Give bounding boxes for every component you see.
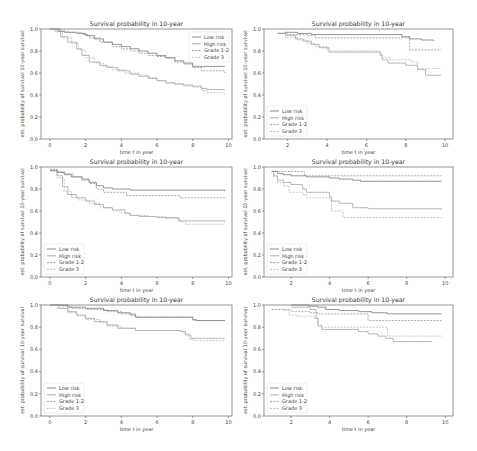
- legend-label: Low risk: [282, 385, 302, 391]
- x-tick-label: 4: [325, 142, 328, 148]
- y-tick-label: 0.4: [253, 92, 261, 98]
- survival-curve-high-risk: [278, 33, 441, 75]
- x-axis-label: time t in year: [120, 426, 155, 433]
- legend-label: Low risk: [204, 34, 224, 40]
- y-axis-label: est. probability of survival 10-year sur…: [242, 30, 249, 137]
- y-tick-label: 0.2: [30, 114, 38, 120]
- x-tick-label: 8: [191, 280, 194, 286]
- x-tick-label: 10: [225, 142, 231, 148]
- y-tick-label: 0.0: [30, 274, 38, 280]
- y-tick-label: 0.0: [253, 274, 261, 280]
- y-tick-label: 1.0: [30, 164, 38, 170]
- legend-label: Low risk: [59, 385, 79, 391]
- y-axis-label: est. probability of survival 10-year sur…: [242, 168, 249, 275]
- y-tick-label: 0.2: [253, 252, 261, 258]
- panel-4: Survival probability in 10-year2468100.0…: [242, 158, 453, 294]
- survival-curve-grade-3: [272, 171, 442, 217]
- x-tick-label: 4: [328, 419, 331, 425]
- legend-label: Grade 3: [204, 54, 224, 60]
- chart-title: Survival probability in 10-year: [312, 296, 406, 304]
- survival-curve-low-risk: [50, 305, 225, 321]
- y-tick-label: 0.6: [253, 208, 261, 214]
- x-axis-label: time t in year: [342, 149, 377, 156]
- y-tick-label: 0.2: [253, 114, 261, 120]
- x-tick-label: 10: [442, 280, 448, 286]
- legend-label: Grade 1-2: [204, 47, 229, 53]
- y-tick-label: 0.2: [30, 391, 38, 397]
- x-tick-label: 8: [191, 142, 194, 148]
- survival-curve-grade-3: [50, 305, 225, 341]
- survival-curve-grade-3: [272, 309, 442, 336]
- legend-label: Grade 1-2: [282, 398, 307, 404]
- x-tick-label: 8: [405, 280, 408, 286]
- x-tick-label: 6: [155, 280, 158, 286]
- legend-label: Grade 3: [282, 405, 302, 411]
- y-tick-label: 0.6: [30, 346, 38, 352]
- survival-curve-high-risk: [291, 307, 432, 341]
- y-axis-label: est. probability of survival 10-year sur…: [242, 307, 249, 414]
- y-tick-label: 0.4: [30, 230, 38, 236]
- x-tick-label: 2: [84, 280, 87, 286]
- x-tick-label: 10: [442, 142, 448, 148]
- y-tick-label: 0.6: [253, 70, 261, 76]
- chart-title: Survival probability in 10-year: [90, 158, 184, 166]
- y-tick-label: 0.0: [30, 136, 38, 142]
- y-tick-label: 1.0: [253, 302, 261, 308]
- survival-curve-high-risk: [272, 171, 442, 210]
- survival-curve-low-risk: [50, 170, 225, 191]
- figure: Survival probability in 10-year02468100.…: [0, 0, 477, 451]
- y-tick-label: 0.4: [30, 92, 38, 98]
- y-tick-label: 0.6: [253, 346, 261, 352]
- x-axis-label: time t in year: [342, 287, 377, 294]
- legend-label: Grade 3: [282, 266, 302, 272]
- x-tick-label: 2: [289, 419, 292, 425]
- y-tick-label: 0.4: [253, 230, 261, 236]
- x-tick-label: 4: [120, 142, 123, 148]
- y-tick-label: 0.8: [253, 48, 261, 54]
- x-tick-label: 10: [225, 419, 231, 425]
- chart-title: Survival probability in 10-year: [90, 20, 184, 28]
- y-tick-label: 0.0: [30, 413, 38, 419]
- x-tick-label: 6: [365, 142, 368, 148]
- x-tick-label: 6: [155, 419, 158, 425]
- y-tick-label: 0.6: [30, 70, 38, 76]
- y-tick-label: 0.8: [30, 48, 38, 54]
- x-tick-label: 4: [120, 419, 123, 425]
- y-tick-label: 1.0: [30, 26, 38, 32]
- survival-curve-grade-1-2: [50, 169, 225, 198]
- y-tick-label: 0.8: [30, 186, 38, 192]
- chart-title: Survival probability in 10-year: [90, 296, 184, 304]
- legend: Low riskHigh riskGrade 1-2Grade 3: [44, 244, 84, 274]
- panel-2: Survival probability in 10-year2468100.0…: [242, 20, 453, 156]
- chart-title: Survival probability in 10-year: [312, 158, 406, 166]
- x-tick-label: 0: [48, 142, 51, 148]
- legend-label: Grade 1-2: [282, 121, 307, 127]
- legend: Low riskHigh riskGrade 1-2Grade 3: [267, 106, 307, 136]
- x-axis-label: time t in year: [120, 287, 155, 294]
- y-tick-label: 0.8: [30, 324, 38, 330]
- panel-1: Survival probability in 10-year02468100.…: [19, 20, 232, 156]
- legend-label: Grade 3: [59, 266, 79, 272]
- x-tick-label: 10: [225, 280, 231, 286]
- legend-label: Low risk: [282, 246, 302, 252]
- legend-label: Grade 3: [59, 405, 79, 411]
- x-tick-label: 8: [404, 142, 407, 148]
- survival-curve-high-risk: [50, 305, 225, 338]
- survival-curve-low-risk: [272, 171, 442, 181]
- survival-curve-grade-1-2: [272, 171, 442, 175]
- y-tick-label: 1.0: [30, 302, 38, 308]
- chart-title: Survival probability in 10-year: [312, 20, 406, 28]
- legend-label: Grade 1-2: [59, 259, 84, 265]
- panel-5: Survival probability in 10-year02468100.…: [19, 296, 232, 433]
- y-axis-label: est. probability of survival 10-year sur…: [19, 307, 26, 414]
- legend: Low riskHigh riskGrade 1-2Grade 3: [267, 244, 307, 274]
- x-tick-label: 10: [442, 419, 448, 425]
- legend-label: Low risk: [282, 108, 302, 114]
- x-tick-label: 6: [367, 419, 370, 425]
- legend-label: Grade 1-2: [59, 398, 84, 404]
- x-tick-label: 8: [191, 419, 194, 425]
- y-tick-label: 0.4: [30, 368, 38, 374]
- legend-label: Grade 3: [282, 128, 302, 134]
- panel-3: Survival probability in 10-year02468100.…: [19, 158, 232, 294]
- x-tick-label: 6: [367, 280, 370, 286]
